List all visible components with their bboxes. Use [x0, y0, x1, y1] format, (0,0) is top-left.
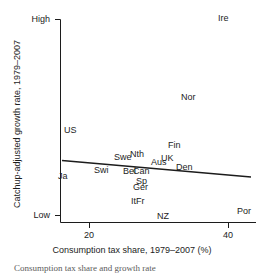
data-label-can: Can [133, 167, 150, 176]
y-axis-title: Catchup-adjusted growth rate, 1979–2007 [12, 40, 22, 208]
caption-partial-line: Consumption tax share and growth rate [14, 265, 156, 273]
x-tick-label-20: 20 [84, 231, 94, 240]
data-label-ire: Ire [218, 14, 229, 23]
data-label-ger: Ger [133, 183, 148, 192]
data-label-uk: UK [161, 154, 174, 163]
data-label-swi: Swi [94, 166, 109, 175]
data-label-por: Por [237, 207, 251, 216]
data-label-den: Den [176, 163, 193, 172]
y-tick-label-low: Low [18, 211, 50, 220]
x-tick-label-40: 40 [223, 231, 233, 240]
data-label-us: US [64, 126, 77, 135]
y-tick-label-high: High [18, 15, 50, 24]
data-label-ja: Ja [58, 172, 68, 181]
data-label-fin: Fin [168, 141, 181, 150]
x-axis-title: Consumption tax share, 1979–2007 (%) [0, 245, 264, 255]
data-label-nth: Nth [130, 150, 144, 159]
data-label-fr: Fr [136, 197, 145, 206]
data-label-nor: Nor [181, 93, 196, 102]
data-label-swe: Swe [114, 153, 132, 162]
data-label-nz: NZ [157, 212, 169, 221]
scatter-chart-figure: High Low 20 40 Consumption tax share, 19… [0, 0, 264, 273]
caption-clip: Consumption tax share and growth rate [0, 265, 264, 273]
